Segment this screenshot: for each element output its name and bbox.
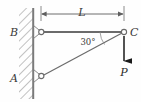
- label-force-p: P: [119, 66, 128, 79]
- label-dimension-length: L: [77, 6, 85, 19]
- pin-joint-c-circle: [121, 29, 126, 34]
- statics-diagram: B A C L 30° P: [0, 0, 141, 102]
- pin-joint-a-circle: [39, 73, 44, 78]
- pin-support-a: [34, 70, 44, 83]
- support-wall: [19, 8, 34, 99]
- label-joint-b: B: [9, 26, 18, 39]
- wall-hatching: [19, 8, 34, 99]
- label-joint-a: A: [9, 72, 18, 85]
- pin-support-b: [34, 26, 44, 39]
- pin-joint-b-circle: [39, 29, 44, 34]
- joint-c: [121, 29, 126, 34]
- label-joint-c: C: [130, 26, 139, 39]
- label-angle-30: 30°: [80, 37, 95, 47]
- diagram-canvas: B A C L 30° P: [0, 0, 141, 102]
